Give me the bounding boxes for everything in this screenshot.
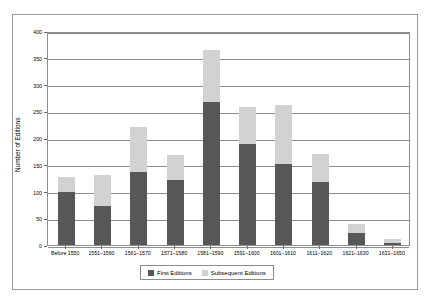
x-tick-label: 1561–1570 (120, 250, 156, 257)
bar-group (58, 31, 75, 245)
x-tick-label: 1621–1630 (337, 250, 373, 257)
bar-segment (167, 155, 184, 180)
bar-segment (384, 243, 401, 245)
bar-group (275, 31, 292, 245)
x-tick-mark (283, 246, 284, 249)
bar-segment (312, 182, 329, 245)
plot-area (47, 32, 410, 246)
bar-segment (94, 206, 111, 245)
x-tick-label: 1631–1650 (374, 250, 410, 257)
x-tick-label: 1571–1580 (156, 250, 192, 257)
x-tick-mark (392, 246, 393, 249)
y-tick-label-350: 350 (20, 56, 42, 62)
y-tick-label-150: 150 (20, 163, 42, 169)
bar-group (384, 31, 401, 245)
bar-group (203, 31, 220, 245)
bar-segment (203, 102, 220, 245)
bar-segment (167, 180, 184, 245)
bar-segment (348, 233, 365, 245)
x-tick-label: Before 1550 (47, 250, 83, 257)
y-tick-label-100: 100 (20, 190, 42, 196)
bar-group (94, 31, 111, 245)
bar-group (239, 31, 256, 245)
y-tick-label-400: 400 (20, 29, 42, 35)
y-tick-label-200: 200 (20, 136, 42, 142)
chart-legend: First Editions Subsequent Editions (140, 265, 274, 280)
bar-segment (203, 50, 220, 102)
bar-segment (130, 127, 147, 171)
bar-segment (239, 107, 256, 144)
legend-label-first-editions: First Editions (157, 269, 192, 277)
y-tick-label-0: 0 (20, 243, 42, 249)
bar-segment (348, 224, 365, 234)
x-tick-label: 1611–1620 (301, 250, 337, 257)
y-tick-label-250: 250 (20, 109, 42, 115)
x-tick-mark (65, 246, 66, 249)
x-tick-label: 1551–1560 (83, 250, 119, 257)
legend-swatch-subsequent-editions (202, 270, 208, 276)
legend-swatch-first-editions (148, 270, 154, 276)
x-tick-mark (247, 246, 248, 249)
bar-segment (94, 175, 111, 205)
bar-segment (239, 144, 256, 245)
bar-segment (384, 239, 401, 244)
x-tick-mark (356, 246, 357, 249)
x-tick-mark (138, 246, 139, 249)
y-tick-label-50: 50 (20, 216, 42, 222)
bar-group (167, 31, 184, 245)
x-tick-mark (210, 246, 211, 249)
x-tick-label: 1601–1610 (265, 250, 301, 257)
bar-group (348, 31, 365, 245)
y-axis-title: Number of Editions (14, 85, 26, 205)
x-tick-mark (174, 246, 175, 249)
x-tick-label: 1591–1600 (229, 250, 265, 257)
x-tick-mark (319, 246, 320, 249)
chart-container: Number of Editions 050100150200250300350… (0, 0, 430, 302)
y-tick-label-300: 300 (20, 83, 42, 89)
legend-item-first-editions: First Editions (148, 269, 192, 277)
bar-segment (275, 164, 292, 245)
bar-segment (58, 177, 75, 192)
bar-segment (58, 192, 75, 245)
bar-segment (275, 105, 292, 164)
bar-group (130, 31, 147, 245)
x-tick-label: 1581–1590 (192, 250, 228, 257)
bar-segment (312, 154, 329, 182)
bar-group (312, 31, 329, 245)
legend-label-subsequent-editions: Subsequent Editions (211, 269, 266, 277)
x-tick-mark (101, 246, 102, 249)
bar-segment (130, 172, 147, 245)
legend-item-subsequent-editions: Subsequent Editions (202, 269, 266, 277)
